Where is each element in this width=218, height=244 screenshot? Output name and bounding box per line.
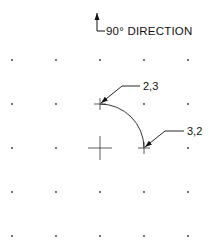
callout-leader-3-2 bbox=[145, 131, 184, 147]
arc-diagram: 90° DIRECTION 2,3 3,2 bbox=[0, 0, 218, 244]
direction-indicator: 90° DIRECTION bbox=[97, 13, 192, 37]
grid-dot bbox=[187, 191, 189, 193]
grid-dot bbox=[99, 191, 101, 193]
grid-dot bbox=[55, 59, 57, 61]
grid-dot bbox=[11, 59, 13, 61]
grid-dot bbox=[99, 235, 101, 237]
grid-dot bbox=[187, 147, 189, 149]
grid-dot bbox=[187, 59, 189, 61]
grid-dot bbox=[187, 103, 189, 105]
callout-label-2-3: 2,3 bbox=[143, 80, 158, 92]
grid-dot bbox=[55, 235, 57, 237]
center-cross-icon bbox=[88, 136, 112, 160]
grid-dot bbox=[55, 147, 57, 149]
grid-dot bbox=[143, 59, 145, 61]
direction-label: 90° DIRECTION bbox=[106, 25, 192, 37]
grid-dot bbox=[143, 103, 145, 105]
callout-leader-2-3 bbox=[101, 86, 140, 103]
grid-dot bbox=[143, 191, 145, 193]
callout-3-2: 3,2 bbox=[145, 125, 202, 147]
grid-dot bbox=[55, 103, 57, 105]
grid-dot bbox=[187, 235, 189, 237]
grid-dot bbox=[99, 59, 101, 61]
grid-dot bbox=[11, 147, 13, 149]
grid-dot bbox=[55, 191, 57, 193]
grid-dot bbox=[143, 235, 145, 237]
callout-label-3-2: 3,2 bbox=[187, 125, 202, 137]
grid-dot bbox=[11, 103, 13, 105]
callout-2-3: 2,3 bbox=[101, 80, 158, 103]
grid-dot bbox=[11, 235, 13, 237]
arc-path bbox=[100, 104, 144, 148]
grid-dot bbox=[11, 191, 13, 193]
